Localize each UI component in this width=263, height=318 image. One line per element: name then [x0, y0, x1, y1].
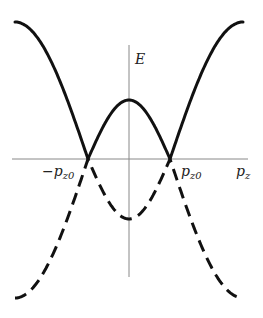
pz-base: p	[236, 163, 245, 179]
neg-pz0-sub: z0	[63, 170, 75, 181]
neg-pz0-base: p	[54, 163, 63, 179]
neg-pz0-prefix: −	[42, 163, 54, 179]
band-diagram	[0, 0, 263, 318]
pz-sub: z	[245, 170, 250, 181]
pos-pz0-sub: z0	[190, 170, 202, 181]
energy-axis-label: E	[135, 52, 145, 66]
pz-axis-label: pz	[236, 164, 250, 181]
pos-pz0-base: p	[181, 163, 190, 179]
neg-pz0-label: −pz0	[42, 164, 74, 181]
pos-pz0-label: pz0	[181, 164, 202, 181]
